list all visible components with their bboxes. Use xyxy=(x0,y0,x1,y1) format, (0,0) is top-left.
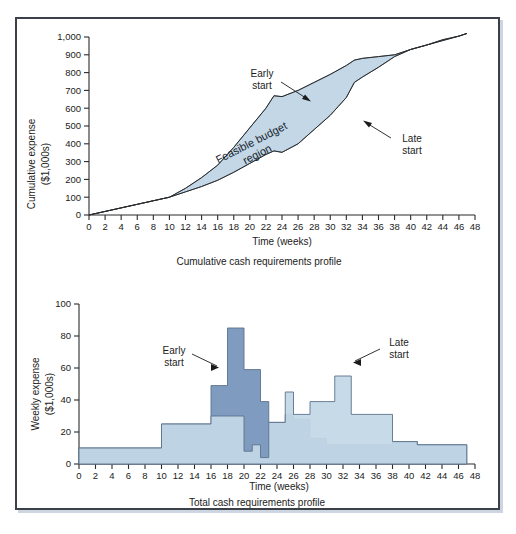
weekly-y-tick-label: 20 xyxy=(60,426,71,437)
cumulative-xlabel: Time (weeks) xyxy=(252,236,312,247)
weekly-x-tick-label: 10 xyxy=(156,470,167,481)
weekly-early-start-line2: start xyxy=(164,357,184,368)
late-start-step-profile xyxy=(79,376,467,464)
weekly-x-tick-label: 6 xyxy=(126,470,131,481)
weekly-x-tick-label: 34 xyxy=(354,470,365,481)
cumulative-x-tick-label: 24 xyxy=(277,221,288,232)
cumulative-y-tick-label: 200 xyxy=(65,174,81,185)
weekly-x-tick-label: 32 xyxy=(338,470,349,481)
cumulative-x-tick-label: 8 xyxy=(151,221,156,232)
cumulative-x-tick-label: 14 xyxy=(196,221,207,232)
late-start-arrowhead xyxy=(363,121,372,128)
weekly-x-tick-label: 20 xyxy=(239,470,250,481)
weekly-early-leader-line xyxy=(192,354,217,366)
weekly-y-tick-label: 100 xyxy=(55,298,71,309)
cumulative-y-tick-label: 900 xyxy=(65,49,81,60)
cumulative-x-tick-label: 6 xyxy=(135,221,140,232)
weekly-x-tick-label: 42 xyxy=(420,470,431,481)
cumulative-late-start-annotation: Late start xyxy=(363,121,422,157)
cumulative-cash-chart: Cumulative expense ($1,000s) 01002003004… xyxy=(17,19,498,274)
weekly-x-tick-label: 4 xyxy=(109,470,114,481)
weekly-y-tick-label: 0 xyxy=(66,458,71,469)
cumulative-late-start-line1: Late xyxy=(402,133,422,144)
cumulative-x-tick-label: 42 xyxy=(421,221,432,232)
cumulative-x-ticks: 0246810121416182022242628303234363840424… xyxy=(86,215,480,232)
weekly-x-tick-label: 36 xyxy=(371,470,382,481)
weekly-y-tick-label: 60 xyxy=(60,362,71,373)
weekly-x-tick-label: 14 xyxy=(189,470,200,481)
weekly-x-tick-label: 16 xyxy=(206,470,217,481)
cumulative-y-tick-label: 100 xyxy=(65,192,81,203)
weekly-early-start-line1: Early xyxy=(163,345,186,356)
cumulative-x-tick-label: 4 xyxy=(119,221,124,232)
weekly-x-tick-label: 46 xyxy=(453,470,464,481)
weekly-chart-svg: Weekly expense ($1,000s) 020406080100 02… xyxy=(17,274,502,508)
cumulative-x-tick-label: 30 xyxy=(325,221,336,232)
cumulative-x-tick-label: 48 xyxy=(470,221,481,232)
weekly-x-ticks: 0246810121416182022242628303234363840424… xyxy=(76,464,480,481)
weekly-x-tick-label: 8 xyxy=(142,470,147,481)
weekly-x-tick-label: 22 xyxy=(255,470,266,481)
cumulative-y-tick-label: 400 xyxy=(65,138,81,149)
cumulative-x-tick-label: 26 xyxy=(293,221,304,232)
cumulative-x-tick-label: 18 xyxy=(228,221,239,232)
weekly-early-start-annotation: Early start xyxy=(163,345,219,371)
cumulative-y-ticks: 01002003004005006007008009001,000 xyxy=(57,31,89,220)
weekly-x-tick-label: 40 xyxy=(404,470,415,481)
weekly-x-tick-label: 30 xyxy=(321,470,332,481)
cumulative-late-start-line2: start xyxy=(402,145,422,156)
cumulative-x-tick-label: 10 xyxy=(164,221,175,232)
cumulative-ylabel-line2: ($1,000s) xyxy=(40,143,51,185)
cumulative-y-tick-label: 1,000 xyxy=(57,31,81,42)
cumulative-y-tick-label: 700 xyxy=(65,85,81,96)
cumulative-early-start-line2: start xyxy=(252,80,272,91)
weekly-caption: Total cash requirements profile xyxy=(189,497,326,508)
cumulative-x-tick-label: 44 xyxy=(438,221,449,232)
weekly-x-tick-label: 12 xyxy=(173,470,184,481)
cumulative-x-tick-label: 16 xyxy=(212,221,223,232)
cumulative-chart-svg: Cumulative expense ($1,000s) 01002003004… xyxy=(17,19,502,274)
cumulative-x-tick-label: 28 xyxy=(309,221,320,232)
cumulative-x-tick-label: 36 xyxy=(373,221,384,232)
weekly-x-tick-label: 48 xyxy=(470,470,481,481)
weekly-x-tick-label: 24 xyxy=(272,470,283,481)
cumulative-x-tick-label: 20 xyxy=(245,221,256,232)
weekly-late-start-line2: start xyxy=(389,349,409,360)
weekly-ylabel-line1: Weekly expense xyxy=(30,357,41,431)
cumulative-x-tick-label: 46 xyxy=(454,221,465,232)
cumulative-x-tick-label: 12 xyxy=(180,221,191,232)
cumulative-y-tick-label: 800 xyxy=(65,67,81,78)
weekly-x-tick-label: 0 xyxy=(76,470,81,481)
cumulative-x-tick-label: 22 xyxy=(261,221,272,232)
weekly-y-tick-label: 80 xyxy=(60,330,71,341)
cumulative-x-tick-label: 32 xyxy=(341,221,352,232)
weekly-late-start-annotation: Late start xyxy=(353,337,409,366)
weekly-x-tick-label: 44 xyxy=(437,470,448,481)
weekly-xlabel: Time (weeks) xyxy=(249,481,309,492)
cumulative-x-tick-label: 38 xyxy=(389,221,400,232)
weekly-x-tick-label: 18 xyxy=(222,470,233,481)
cumulative-y-tick-label: 500 xyxy=(65,120,81,131)
weekly-y-tick-label: 40 xyxy=(60,394,71,405)
weekly-x-tick-label: 28 xyxy=(305,470,316,481)
cumulative-y-tick-label: 0 xyxy=(76,209,81,220)
weekly-late-leader-line xyxy=(355,349,380,361)
weekly-late-start-line1: Late xyxy=(389,337,409,348)
weekly-x-tick-label: 26 xyxy=(288,470,299,481)
weekly-x-tick-label: 38 xyxy=(387,470,398,481)
cumulative-y-tick-label: 600 xyxy=(65,103,81,114)
cumulative-y-tick-label: 300 xyxy=(65,156,81,167)
cumulative-x-tick-label: 2 xyxy=(102,221,107,232)
cumulative-early-start-line1: Early xyxy=(251,68,274,79)
cumulative-caption: Cumulative cash requirements profile xyxy=(176,256,342,267)
weekly-y-ticks: 020406080100 xyxy=(55,298,79,469)
cumulative-x-tick-label: 34 xyxy=(357,221,368,232)
figure-frame: Cumulative expense ($1,000s) 01002003004… xyxy=(15,17,500,510)
cumulative-ylabel-line1: Cumulative expense xyxy=(26,118,37,209)
weekly-ylabel-line2: ($1,000s) xyxy=(44,373,55,415)
cumulative-x-tick-label: 0 xyxy=(86,221,91,232)
cumulative-x-tick-label: 40 xyxy=(405,221,416,232)
weekly-x-tick-label: 2 xyxy=(93,470,98,481)
weekly-cash-chart: Weekly expense ($1,000s) 020406080100 02… xyxy=(17,274,498,508)
